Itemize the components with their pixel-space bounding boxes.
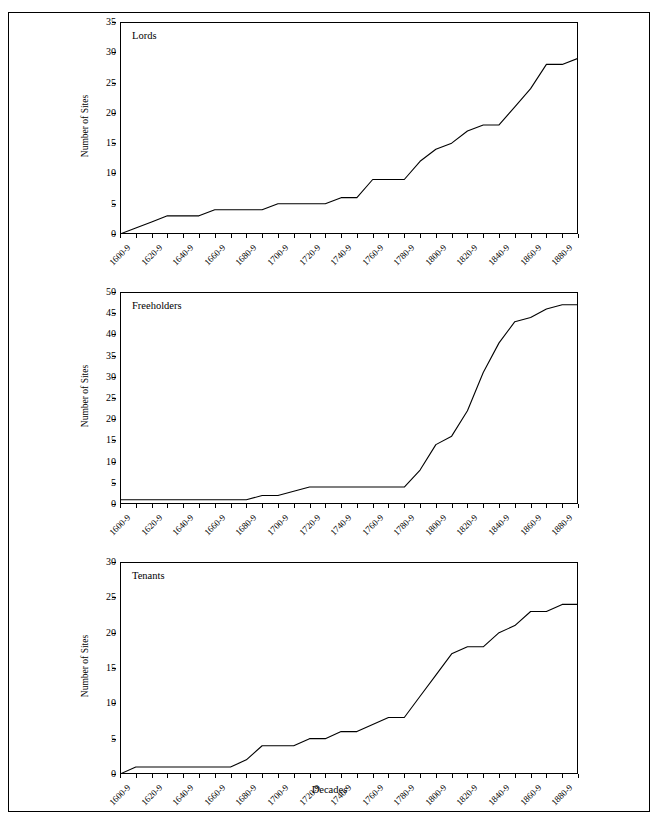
x-tick-label: 1760-9 [350,513,385,548]
x-tick-mark [420,234,421,238]
data-line [120,604,578,774]
x-tick-mark [310,774,311,778]
x-tick-mark [436,234,437,238]
y-tick-mark [112,377,116,378]
figure-page: Number of Sites 05101520253035 Lords 160… [0,0,659,824]
x-tick-mark [294,504,295,508]
series-title: Freeholders [132,300,182,311]
x-tick-mark [578,504,579,508]
x-tick-mark [404,234,405,238]
x-tick-label: 1840-9 [477,513,512,548]
chart-panel-freeholders: Number of Sites 05101520253035404550 Fre… [0,278,659,548]
x-tick-mark [325,234,326,238]
x-tick-label: 1720-9 [287,243,322,278]
x-tick-mark [357,234,358,238]
y-tick-mark [112,313,116,314]
x-tick-mark [167,234,168,238]
x-tick-mark [136,234,137,238]
x-tick-mark [215,504,216,508]
x-axis-tick-labels: 1600-91620-91640-91660-91680-91700-91720… [0,509,659,549]
y-axis-label-holder-0: Number of Sites [26,63,44,183]
x-tick-label: 1840-9 [477,243,512,278]
data-line [120,305,578,500]
x-tick-mark [546,774,547,778]
y-tick-mark [112,143,116,144]
series-title: Tenants [132,570,165,581]
x-tick-mark [515,504,516,508]
x-tick-mark [531,504,532,508]
x-tick-mark [531,774,532,778]
x-tick-mark [562,774,563,778]
y-tick-mark [112,668,116,669]
x-tick-label: 1860-9 [508,513,543,548]
y-tick-mark [112,562,116,563]
x-tick-mark [183,234,184,238]
x-tick-mark [452,234,453,238]
x-tick-mark [199,234,200,238]
x-tick-mark [452,504,453,508]
y-axis-label-holder-2: Number of Sites [26,603,44,723]
x-tick-mark [278,774,279,778]
x-tick-mark [467,234,468,238]
x-tick-mark [562,234,563,238]
x-tick-mark [483,774,484,778]
x-tick-label: 1780-9 [382,243,417,278]
x-tick-label: 1880-9 [540,513,575,548]
plot-area-freeholders: Freeholders [120,292,578,504]
x-tick-mark [199,504,200,508]
x-tick-mark [452,774,453,778]
y-tick-mark [112,462,116,463]
x-tick-mark [278,234,279,238]
x-tick-mark [499,234,500,238]
x-tick-mark [467,504,468,508]
y-tick-mark [112,292,116,293]
x-tick-mark [499,504,500,508]
x-tick-mark [215,774,216,778]
y-tick-mark [112,483,116,484]
x-tick-mark [420,774,421,778]
x-tick-mark [183,774,184,778]
x-tick-mark [420,504,421,508]
x-tick-label: 1860-9 [508,243,543,278]
x-tick-mark [373,504,374,508]
y-tick-mark [112,356,116,357]
x-tick-mark [325,774,326,778]
x-tick-mark [120,234,121,238]
plot-area-lords: Lords [120,22,578,234]
x-tick-label: 1620-9 [129,243,164,278]
y-tick-mark [112,703,116,704]
x-tick-label: 1780-9 [382,513,417,548]
x-tick-mark [436,504,437,508]
x-tick-mark [325,504,326,508]
x-tick-mark [136,774,137,778]
x-tick-label: 1660-9 [192,243,227,278]
x-tick-mark [341,504,342,508]
x-tick-mark [246,774,247,778]
y-tick-mark [112,633,116,634]
chart-panel-tenants: Number of Sites 051015202530 Tenants 160… [0,548,659,818]
x-tick-label: 1800-9 [414,513,449,548]
x-tick-mark [373,774,374,778]
x-tick-mark [467,774,468,778]
y-axis-label-holder-1: Number of Sites [26,333,44,453]
x-tick-mark [499,774,500,778]
x-tick-mark [483,504,484,508]
x-tick-mark [136,504,137,508]
y-tick-mark [112,504,116,505]
x-tick-label: 1700-9 [256,513,291,548]
x-tick-mark [199,774,200,778]
x-tick-label: 1600-9 [98,513,133,548]
x-tick-label: 1700-9 [256,243,291,278]
x-tick-mark [262,504,263,508]
x-tick-label: 1820-9 [445,513,480,548]
x-tick-mark [436,774,437,778]
x-tick-mark [515,774,516,778]
x-tick-mark [278,504,279,508]
x-tick-label: 1680-9 [224,513,259,548]
x-axis-tick-labels: 1600-91620-91640-91660-91680-91700-91720… [0,239,659,279]
y-tick-mark [112,597,116,598]
x-tick-mark [404,504,405,508]
x-tick-mark [373,234,374,238]
x-tick-mark [231,504,232,508]
x-tick-mark [388,234,389,238]
